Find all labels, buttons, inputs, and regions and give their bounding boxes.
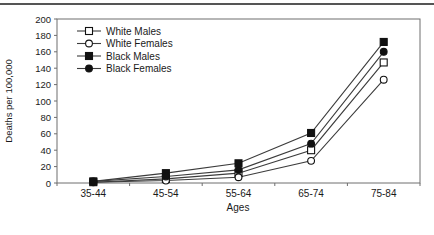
legend-marker-black-males	[86, 53, 93, 60]
legend-label-white-females: White Females	[106, 38, 173, 49]
marker-black-females	[308, 140, 315, 147]
x-axis-category-label: 35-44	[81, 188, 107, 199]
y-axis-tick-label: 160	[35, 46, 51, 57]
x-axis-category-label: 45-54	[153, 188, 179, 199]
legend-label-white-males: White Males	[106, 26, 161, 37]
y-axis-tick-label: 60	[40, 128, 51, 139]
y-axis-tick-label: 20	[40, 161, 51, 172]
y-axis-title: Deaths per 100,000	[3, 59, 14, 142]
figure: 02040608010012014016018020035-4445-5455-…	[0, 0, 434, 235]
legend-label-black-females: Black Females	[106, 63, 172, 74]
x-axis-title: Ages	[227, 202, 250, 213]
marker-black-males	[308, 129, 315, 136]
x-axis-category-label: 65-74	[298, 188, 324, 199]
mortality-line-chart: 02040608010012014016018020035-4445-5455-…	[0, 0, 434, 235]
legend-marker-black-females	[86, 65, 93, 72]
marker-black-females	[235, 166, 242, 173]
legend-marker-white-males	[86, 28, 93, 35]
y-axis-tick-label: 180	[35, 30, 51, 41]
marker-black-females	[163, 173, 170, 180]
marker-black-males	[380, 38, 387, 45]
y-axis-tick-label: 140	[35, 63, 51, 74]
marker-white-females	[308, 157, 315, 164]
marker-white-females	[235, 174, 242, 181]
x-axis-category-label: 75-84	[371, 188, 397, 199]
y-axis-tick-label: 80	[40, 112, 51, 123]
y-axis-tick-label: 200	[35, 14, 51, 25]
marker-white-females	[380, 76, 387, 83]
legend-marker-white-females	[86, 40, 93, 47]
marker-black-males	[235, 160, 242, 167]
x-axis-category-label: 55-64	[226, 188, 252, 199]
top-divider-line	[0, 3, 434, 5]
y-axis-tick-label: 0	[46, 178, 51, 189]
y-axis-tick-label: 40	[40, 145, 51, 156]
marker-black-females	[90, 178, 97, 185]
y-axis-tick-label: 120	[35, 79, 51, 90]
legend-label-black-males: Black Males	[106, 51, 160, 62]
marker-white-males	[380, 59, 387, 66]
marker-black-females	[380, 48, 387, 55]
marker-white-males	[308, 147, 315, 154]
y-axis-tick-label: 100	[35, 96, 51, 107]
